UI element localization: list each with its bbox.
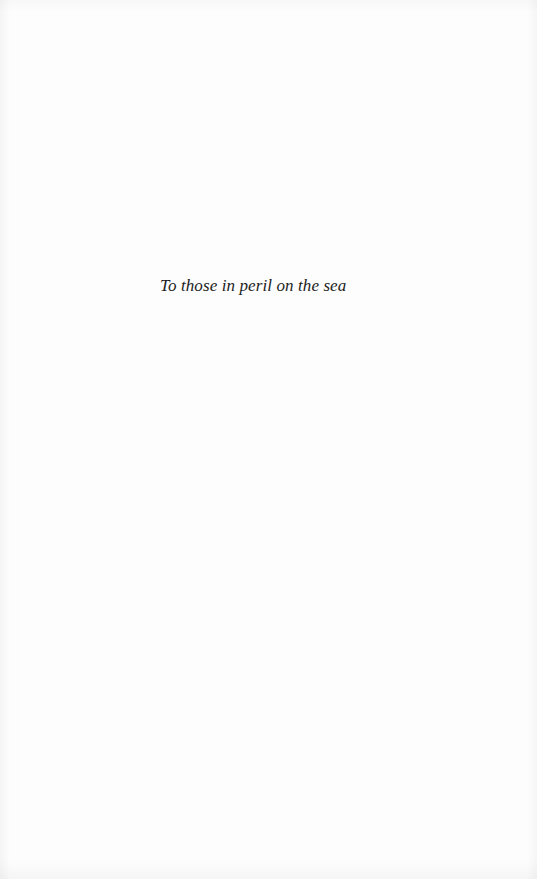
book-page: To those in peril on the sea (0, 0, 537, 879)
dedication-text: To those in peril on the sea (160, 276, 346, 296)
